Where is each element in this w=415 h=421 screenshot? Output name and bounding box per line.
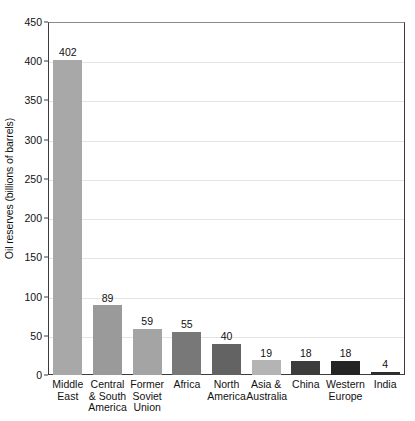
gridline <box>49 219 404 220</box>
x-axis-label-line: Central <box>88 379 128 391</box>
x-axis-label: China <box>286 379 326 391</box>
x-axis-label: WesternEurope <box>326 379 366 402</box>
y-tick-mark <box>44 61 48 62</box>
y-tick-mark <box>44 22 48 23</box>
y-tick-label: 450 <box>0 16 42 28</box>
plot-area <box>48 22 405 375</box>
x-axis-label-line: China <box>286 379 326 391</box>
y-tick-mark <box>44 375 48 376</box>
y-tick-mark <box>44 257 48 258</box>
gridline <box>49 180 404 181</box>
x-axis-label-line: Western <box>326 379 366 391</box>
y-tick-mark <box>44 335 48 336</box>
x-axis-label: NorthAmerica <box>207 379 247 402</box>
x-axis-label: FormerSovietUnion <box>127 379 167 414</box>
y-tick-label: 100 <box>0 291 42 303</box>
x-axis-label: Africa <box>167 379 207 391</box>
gridline <box>49 141 404 142</box>
gridline <box>49 337 404 338</box>
x-axis-label-line: Australia <box>246 391 286 403</box>
x-axis-label-line: Former <box>127 379 167 391</box>
x-axis-label-line: Asia & <box>246 379 286 391</box>
y-tick-mark <box>44 100 48 101</box>
y-tick-label: 150 <box>0 251 42 263</box>
y-tick-mark <box>44 296 48 297</box>
x-axis-label-line: North <box>207 379 247 391</box>
x-axis-label-line: Union <box>127 402 167 414</box>
y-tick-mark <box>44 178 48 179</box>
x-axis-labels: MiddleEastCentral& SouthAmericaFormerSov… <box>48 379 405 421</box>
y-tick-label: 250 <box>0 173 42 185</box>
gridline <box>49 62 404 63</box>
x-axis-label-line: America <box>88 402 128 414</box>
x-axis-label-line: America <box>207 391 247 403</box>
x-axis-label: Asia &Australia <box>246 379 286 402</box>
gridline <box>49 258 404 259</box>
gridline <box>49 101 404 102</box>
x-axis-label-line: India <box>365 379 405 391</box>
x-axis-label-line: Europe <box>326 391 366 403</box>
y-tick-label: 50 <box>0 330 42 342</box>
bar-chart: Oil reserves (billions of barrels) 05010… <box>0 0 415 421</box>
gridline <box>49 298 404 299</box>
y-tick-label: 200 <box>0 212 42 224</box>
y-tick-label: 0 <box>0 369 42 381</box>
x-axis-label: MiddleEast <box>48 379 88 402</box>
y-tick-label: 400 <box>0 55 42 67</box>
x-axis-label-line: East <box>48 391 88 403</box>
x-axis-label-line: Africa <box>167 379 207 391</box>
y-tick-label: 350 <box>0 94 42 106</box>
y-tick-label: 300 <box>0 134 42 146</box>
x-axis-label: Central& SouthAmerica <box>88 379 128 414</box>
x-axis-label-line: Middle <box>48 379 88 391</box>
y-tick-mark <box>44 218 48 219</box>
y-tick-mark <box>44 139 48 140</box>
x-axis-label: India <box>365 379 405 391</box>
